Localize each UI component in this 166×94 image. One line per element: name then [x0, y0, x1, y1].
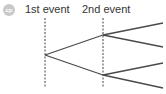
- branch-lower-upper: [103, 63, 163, 75]
- tree-diagram: [0, 0, 166, 94]
- branch-upper-upper: [103, 23, 163, 35]
- branch-upper-lower: [103, 35, 163, 47]
- branch-lower-lower: [103, 75, 163, 88]
- branch-upper: [45, 35, 103, 55]
- branch-lower: [45, 55, 103, 75]
